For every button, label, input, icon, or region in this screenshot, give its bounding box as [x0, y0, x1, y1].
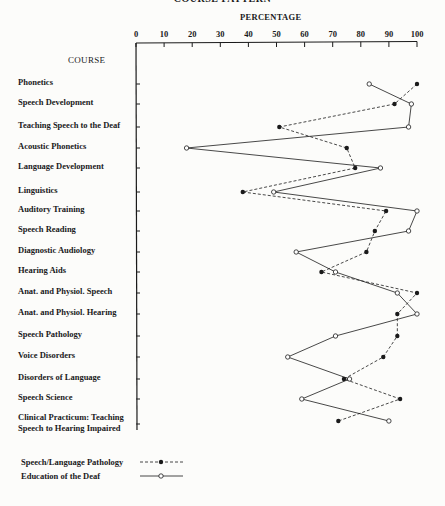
open-circle-marker-icon	[367, 82, 371, 86]
filled-circle-marker-icon	[277, 125, 281, 129]
open-circle-marker-icon	[286, 355, 290, 359]
open-circle-marker-icon	[378, 166, 382, 170]
filled-circle-marker-icon	[381, 355, 385, 359]
filled-circle-marker-icon	[353, 166, 357, 170]
legend-filled-circle-icon	[159, 460, 163, 464]
open-circle-marker-icon	[184, 146, 188, 150]
filled-circle-marker-icon	[395, 334, 399, 338]
filled-circle-marker-icon	[345, 146, 349, 150]
filled-circle-marker-icon	[395, 312, 399, 316]
series-education-of-the-deaf-line	[187, 84, 417, 421]
open-circle-marker-icon	[409, 102, 413, 106]
filled-circle-marker-icon	[364, 250, 368, 254]
filled-circle-marker-icon	[373, 229, 377, 233]
open-circle-marker-icon	[395, 291, 399, 295]
open-circle-marker-icon	[415, 312, 419, 316]
filled-circle-marker-icon	[319, 270, 323, 274]
open-circle-marker-icon	[347, 377, 351, 381]
filled-circle-marker-icon	[392, 102, 396, 106]
plot-area	[0, 0, 445, 506]
open-circle-marker-icon	[406, 229, 410, 233]
open-circle-marker-icon	[294, 250, 298, 254]
filled-circle-marker-icon	[415, 82, 419, 86]
open-circle-marker-icon	[333, 334, 337, 338]
filled-circle-marker-icon	[241, 190, 245, 194]
y-axis-line	[136, 43, 137, 430]
open-circle-marker-icon	[415, 209, 419, 213]
filled-circle-marker-icon	[384, 209, 388, 213]
open-circle-marker-icon	[300, 397, 304, 401]
filled-circle-marker-icon	[336, 419, 340, 423]
open-circle-marker-icon	[387, 419, 391, 423]
filled-circle-marker-icon	[342, 377, 346, 381]
filled-circle-marker-icon	[398, 397, 402, 401]
open-circle-marker-icon	[333, 270, 337, 274]
open-circle-marker-icon	[406, 125, 410, 129]
filled-circle-marker-icon	[415, 291, 419, 295]
open-circle-marker-icon	[271, 190, 275, 194]
legend-open-circle-icon	[159, 474, 163, 478]
